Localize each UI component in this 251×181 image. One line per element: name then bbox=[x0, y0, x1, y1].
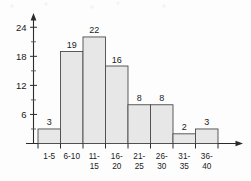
x-axis-category-label: 16- bbox=[111, 152, 123, 161]
x-axis-category-label: 15 bbox=[90, 162, 100, 171]
y-axis-labels: 6121824 bbox=[16, 22, 27, 120]
x-axis-category-label: 40 bbox=[202, 162, 212, 171]
bar-value-label: 22 bbox=[89, 25, 99, 35]
bar-value-label: 19 bbox=[67, 40, 77, 50]
x-axis-ticks bbox=[38, 144, 218, 149]
x-axis-category-label: 20 bbox=[112, 162, 122, 171]
x-axis-category-label: 1-5 bbox=[43, 152, 55, 161]
x-axis-category-label: 11- bbox=[89, 152, 100, 161]
y-axis-arrowhead bbox=[31, 13, 37, 21]
y-axis-tick-label: 24 bbox=[16, 22, 27, 33]
y-axis-tick-label: 18 bbox=[16, 51, 27, 62]
y-axis-tick-label: 6 bbox=[21, 109, 26, 120]
x-axis-category-label: 30 bbox=[157, 162, 167, 171]
bar-value-label: 3 bbox=[204, 117, 209, 127]
x-axis-category-label: 36- bbox=[201, 152, 213, 161]
bar-value-label: 8 bbox=[137, 93, 142, 103]
x-axis-category-label: 31- bbox=[178, 152, 190, 161]
x-axis-category-label: 21- bbox=[133, 152, 145, 161]
histogram-bar bbox=[128, 105, 151, 144]
histogram-bar bbox=[61, 51, 84, 143]
histogram-bar bbox=[151, 105, 174, 144]
histogram-bar bbox=[38, 129, 61, 144]
x-axis-labels: 1-56-1011-1516-2021-2526-3031-3536-40 bbox=[43, 152, 213, 171]
x-axis-category-label: 6-10 bbox=[64, 152, 81, 161]
histogram-chart: 6121824 31922168823 1-56-1011-1516-2021-… bbox=[0, 0, 251, 181]
histogram-bar bbox=[106, 66, 129, 143]
bar-value-label: 8 bbox=[159, 93, 164, 103]
x-axis-category-label: 35 bbox=[180, 162, 190, 171]
bar-value-label: 2 bbox=[182, 122, 187, 132]
histogram-bar bbox=[83, 37, 106, 144]
x-axis-category-label: 25 bbox=[135, 162, 145, 171]
y-axis-tick-label: 12 bbox=[16, 80, 27, 91]
histogram-bar bbox=[173, 134, 196, 144]
bar-value-label: 3 bbox=[47, 117, 52, 127]
histogram-figure: 6121824 31922168823 1-56-1011-1516-2021-… bbox=[0, 0, 251, 181]
x-axis-arrowhead bbox=[236, 141, 244, 147]
bars-group bbox=[38, 37, 218, 144]
histogram-bar bbox=[196, 129, 219, 144]
x-axis-category-label: 26- bbox=[156, 152, 168, 161]
bar-value-label: 16 bbox=[112, 55, 122, 65]
